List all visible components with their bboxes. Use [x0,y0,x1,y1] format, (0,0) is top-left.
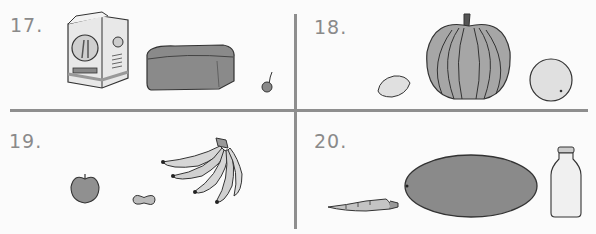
question-number: 19. [9,130,42,152]
question-number: 17. [10,14,43,36]
question-number: 20. [314,130,347,152]
milk-bottle-icon [549,145,583,219]
watermelon-icon [403,153,539,219]
bread-loaf-icon [145,43,237,93]
orange-icon [528,57,574,103]
question-number: 18. [314,16,347,38]
cherry-icon [260,70,276,94]
vertical-divider [294,14,297,229]
banana-bunch-icon [158,136,246,208]
apple-icon [68,171,102,205]
flour-bag-icon [62,10,132,92]
carrot-icon [326,197,400,213]
lemon-icon [376,73,412,99]
peanut-icon [131,193,157,207]
horizontal-divider [10,109,588,112]
pumpkin-icon [424,12,514,102]
